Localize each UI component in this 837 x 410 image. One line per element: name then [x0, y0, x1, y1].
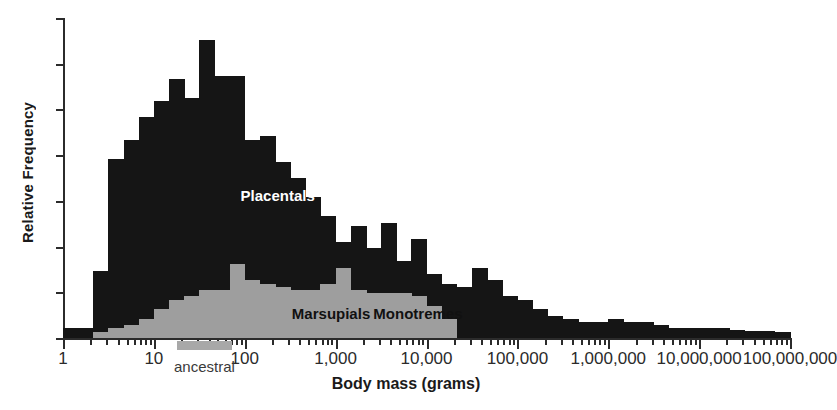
x-axis-tick-minor — [672, 340, 674, 345]
y-axis-tick — [56, 247, 63, 249]
x-axis-tick-minor — [503, 340, 505, 345]
x-axis-tick-minor — [770, 340, 772, 345]
x-axis-tick-minor — [363, 340, 365, 345]
x-axis-tick-label: 10 — [144, 349, 163, 369]
x-axis-tick-minor — [406, 340, 408, 345]
x-axis-tick-minor — [776, 340, 778, 345]
histogram-bar — [245, 280, 261, 338]
x-axis-tick-minor — [315, 340, 317, 345]
x-axis-tick-minor — [118, 340, 120, 345]
x-axis-tick-minor — [90, 340, 92, 345]
x-axis-tick-minor — [490, 340, 492, 345]
histogram-bar — [154, 309, 170, 338]
y-axis-tick — [56, 338, 63, 340]
y-axis-tick — [56, 201, 63, 203]
x-axis-tick-minor — [726, 340, 728, 345]
x-axis-tick-minor — [390, 340, 392, 345]
histogram-bar — [169, 300, 185, 338]
plot-area: PlacentalsMarsupialsMonotremes — [63, 18, 790, 338]
histogram-bar — [139, 117, 155, 338]
histogram-bar — [124, 325, 140, 338]
x-axis-tick-label: 1 — [58, 349, 67, 369]
x-axis-tick-minor — [299, 340, 301, 345]
x-axis-tick-minor — [604, 340, 606, 345]
histogram-bar — [63, 328, 79, 338]
y-axis-tick — [56, 18, 63, 20]
histogram-bar — [608, 319, 624, 338]
histogram-bar — [139, 319, 155, 338]
histogram-bar — [760, 331, 776, 338]
histogram-bar — [502, 296, 518, 338]
x-axis-tick-minor — [663, 340, 665, 345]
histogram-bar — [714, 328, 730, 338]
histogram-bar — [669, 328, 685, 338]
x-axis-title: Body mass (grams) — [0, 375, 812, 393]
y-axis-tick — [56, 292, 63, 294]
x-axis-tick-label: 10,000 — [401, 349, 453, 369]
x-axis-tick-minor — [679, 340, 681, 345]
monotremes-label: Monotremes — [373, 305, 462, 322]
histogram-bar — [199, 290, 215, 338]
y-axis-tick — [56, 155, 63, 157]
x-axis-tick-minor — [322, 340, 324, 345]
x-axis-tick-minor — [145, 340, 147, 345]
x-axis-tick-minor — [754, 340, 756, 345]
marsupials-label: Marsupials — [292, 305, 370, 322]
x-axis-tick-label: 10,000,000 — [657, 349, 742, 369]
x-axis-tick-minor — [685, 340, 687, 345]
x-axis-tick-minor — [652, 340, 654, 345]
x-axis-tick-minor — [422, 340, 424, 345]
x-axis-tick-minor — [545, 340, 547, 345]
x-axis-tick-major — [245, 340, 247, 349]
histogram-bar — [745, 331, 761, 338]
x-axis-tick-minor — [690, 340, 692, 345]
histogram-bar — [336, 268, 352, 338]
x-axis-tick-minor — [134, 340, 136, 345]
x-axis-tick-minor — [599, 340, 601, 345]
x-axis-tick-label: 100,000 — [487, 349, 548, 369]
x-axis-tick-minor — [572, 340, 574, 345]
x-axis-tick-minor — [140, 340, 142, 345]
histogram-bar — [729, 330, 745, 338]
x-axis-tick-minor — [454, 340, 456, 345]
histogram-bar — [699, 328, 715, 338]
placentals-label: Placentals — [241, 187, 315, 204]
histogram-bar — [487, 280, 503, 338]
x-axis-tick-major — [427, 340, 429, 349]
x-axis-tick-minor — [327, 340, 329, 345]
x-axis-tick-minor — [763, 340, 765, 345]
x-axis-tick-minor — [581, 340, 583, 345]
y-axis-tick — [56, 64, 63, 66]
histogram-bar — [275, 287, 291, 338]
x-axis-tick-major — [63, 340, 65, 349]
histogram-bar — [214, 290, 230, 338]
x-axis-tick-minor — [636, 340, 638, 345]
x-axis-tick-label: 1,000 — [314, 349, 357, 369]
histogram-bar — [472, 268, 488, 338]
x-axis-tick-minor — [379, 340, 381, 345]
x-axis-tick-minor — [236, 340, 238, 345]
x-axis-tick-major — [790, 340, 792, 349]
x-axis-tick-minor — [470, 340, 472, 345]
x-axis-tick-major — [154, 340, 156, 349]
histogram-bar — [108, 328, 124, 338]
x-axis-tick-minor — [399, 340, 401, 345]
x-axis-tick-minor — [106, 340, 108, 345]
histogram-bar — [93, 271, 109, 338]
x-axis-tick-major — [608, 340, 610, 349]
x-axis-tick-minor — [561, 340, 563, 345]
histogram-bar — [184, 296, 200, 338]
x-axis-tick-minor — [594, 340, 596, 345]
histogram-bar — [154, 101, 170, 338]
histogram-bar — [533, 309, 549, 338]
x-axis-tick-minor — [127, 340, 129, 345]
x-axis-tick-minor — [331, 340, 333, 345]
y-axis-title: Relative Frequency — [14, 42, 40, 302]
histogram-bar — [654, 325, 670, 338]
x-axis-tick-minor — [150, 340, 152, 345]
histogram-bar — [548, 316, 564, 338]
x-axis-tick-major — [699, 340, 701, 349]
ancestral-range-bar — [177, 341, 232, 350]
histogram-bar — [623, 322, 639, 338]
